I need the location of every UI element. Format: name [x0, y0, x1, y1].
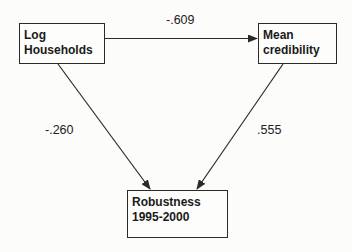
- node-mean-credibility: Mean credibility: [258, 23, 337, 64]
- node-mean-credibility-line-1: Mean: [263, 28, 336, 43]
- coefficient-log-households-robustness: -.260: [45, 123, 74, 137]
- coefficient-mean-credibility-robustness: .555: [257, 123, 281, 137]
- node-log-households: Log Households: [19, 23, 105, 64]
- node-robustness-line-2: 1995-2000: [132, 210, 227, 225]
- node-robustness-line-1: Robustness: [132, 195, 227, 210]
- node-log-households-line-1: Log: [24, 28, 104, 43]
- node-mean-credibility-line-2: credibility: [263, 43, 336, 58]
- node-log-households-line-2: Households: [24, 43, 104, 58]
- node-robustness: Robustness 1995-2000: [127, 190, 228, 238]
- coefficient-log-households-mean-credibility: -.609: [166, 13, 195, 27]
